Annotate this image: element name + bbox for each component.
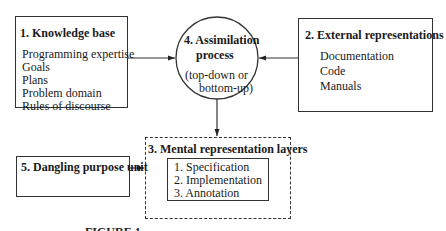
knowledge-base-item: Goals — [22, 60, 50, 74]
assimilation-title-line2: process — [196, 48, 234, 63]
assimilation-sub-line2: bottom-up) — [199, 81, 253, 95]
knowledge-base-item: Programming expertise — [22, 47, 134, 61]
external-representations-item: Manuals — [320, 79, 361, 93]
knowledge-base-item: Rules of discourse — [22, 99, 111, 113]
external-representations-item: Code — [320, 64, 345, 78]
mental-layer-item: 1. Specification — [174, 160, 249, 174]
mental-layer-item: 3. Annotation — [174, 186, 239, 200]
figure-caption: FIGURE 1. — [85, 225, 144, 231]
external-representations-item: Documentation — [320, 49, 394, 63]
assimilation-title-line1: 4. Assimilation — [184, 33, 259, 48]
assimilation-sub-line1: (top-down or — [185, 68, 248, 82]
external-representations-title: 2. External representations — [305, 28, 444, 43]
dangling-purpose-unit-title: 5. Dangling purpose unit — [21, 160, 148, 175]
knowledge-base-item: Problem domain — [22, 86, 102, 100]
mental-representation-layers-title: 3. Mental representation layers — [148, 142, 308, 157]
mental-layer-item: 2. Implementation — [174, 173, 262, 187]
knowledge-base-title: 1. Knowledge base — [20, 26, 115, 41]
knowledge-base-item: Plans — [22, 73, 48, 87]
